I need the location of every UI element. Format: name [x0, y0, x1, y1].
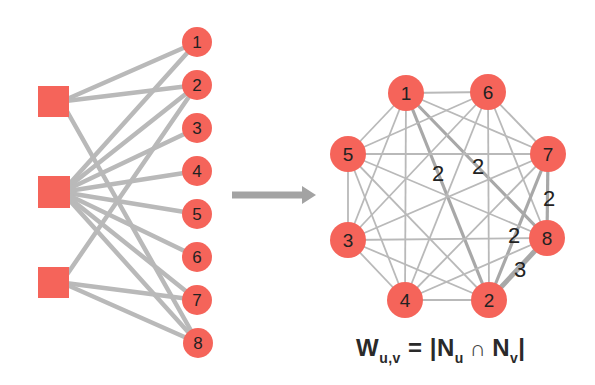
- item-node-8: 8: [183, 328, 213, 358]
- weight-formula: Wu,v = |Nu∩Nv|: [356, 334, 526, 366]
- svg-text:1: 1: [401, 83, 412, 104]
- item-node-2: 2: [182, 70, 212, 100]
- projection-node-3: 3: [330, 222, 366, 258]
- svg-text:1: 1: [192, 33, 201, 52]
- projection-node-6: 6: [470, 74, 506, 110]
- svg-text:2: 2: [484, 290, 495, 311]
- svg-text:7: 7: [543, 144, 554, 165]
- intersection-symbol: ∩: [470, 336, 486, 361]
- svg-text:6: 6: [192, 248, 201, 267]
- formula-w: W: [356, 334, 379, 361]
- weight-label-7-8: 2: [543, 186, 555, 211]
- projection-node-4: 4: [387, 282, 423, 318]
- group-node-A: [38, 86, 69, 117]
- arrow-icon: [232, 186, 316, 204]
- svg-text:6: 6: [483, 82, 494, 103]
- svg-text:3: 3: [343, 230, 354, 251]
- formula-w-subscript: u,v: [379, 350, 401, 366]
- projection-node-5: 5: [330, 136, 366, 172]
- svg-text:3: 3: [192, 119, 201, 138]
- group-node-B: [38, 176, 70, 208]
- weight-label-2-7: 2: [508, 223, 520, 248]
- item-node-4: 4: [182, 156, 212, 186]
- svg-text:4: 4: [400, 290, 411, 311]
- projection-edge-2-6: [488, 92, 489, 300]
- projection-edge-2-5: [348, 154, 489, 300]
- formula-n2: N: [492, 334, 510, 361]
- weight-label-2-8: 3: [514, 257, 526, 282]
- weight-label-1-2: 2: [432, 161, 444, 186]
- svg-text:8: 8: [193, 334, 202, 353]
- svg-text:4: 4: [192, 162, 201, 181]
- projection-node-1: 1: [388, 75, 424, 111]
- projection-edge-3-6: [348, 92, 488, 240]
- weight-label-1-8: 2: [472, 154, 484, 179]
- projection-node-8: 8: [529, 220, 565, 256]
- bipartite-edges: [62, 42, 199, 343]
- projection-node-7: 7: [530, 136, 566, 172]
- formula-close: |: [518, 334, 525, 361]
- formula-eq: = |N: [408, 334, 455, 361]
- item-node-5: 5: [182, 199, 212, 229]
- svg-text:5: 5: [192, 205, 201, 224]
- bipartite-edge-B-8: [62, 192, 198, 343]
- item-node-6: 6: [182, 242, 212, 272]
- svg-text:5: 5: [343, 144, 354, 165]
- bipartite-item-nodes: 12345678: [182, 27, 213, 358]
- item-node-3: 3: [182, 113, 212, 143]
- edge-weight-labels: 22223: [432, 154, 555, 282]
- item-node-7: 7: [182, 285, 212, 315]
- group-node-C: [38, 267, 69, 298]
- item-node-1: 1: [182, 27, 212, 57]
- bipartite-group-nodes: [38, 86, 70, 298]
- svg-text:7: 7: [192, 291, 201, 310]
- svg-text:2: 2: [192, 76, 201, 95]
- formula-n1-subscript: u: [455, 350, 464, 366]
- diagram-canvas: 12345678 16782435 22223: [0, 0, 595, 385]
- projection-node-2: 2: [471, 282, 507, 318]
- svg-text:8: 8: [542, 228, 553, 249]
- projection-edge-1-4: [405, 93, 406, 300]
